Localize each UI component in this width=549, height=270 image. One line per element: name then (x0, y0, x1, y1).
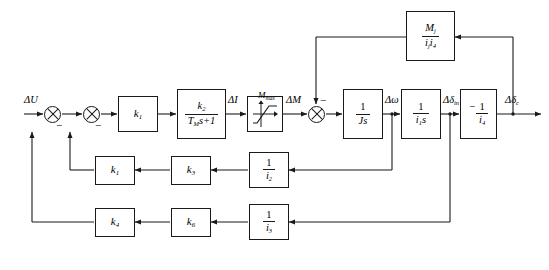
saturation-curve-icon (248, 97, 282, 131)
k1-feedback-label: k1 (111, 164, 119, 177)
input-signal-label: ΔU (24, 95, 38, 106)
i3-feedback-label: 1 i3 (263, 210, 275, 235)
k4-feedback-label: k4 (111, 216, 119, 229)
saturation-block[interactable] (247, 96, 283, 132)
i1-integrator-block[interactable]: 1 i1s (401, 89, 441, 139)
k1-gain-label: k1 (134, 108, 142, 121)
output-gain-label: − 1 i4 (469, 102, 488, 127)
sum-1-minus-sign: − (56, 120, 62, 131)
k4-feedback-block[interactable]: k4 (95, 208, 135, 237)
sum-2-minus-sign: − (95, 120, 101, 131)
k1-gain-block[interactable]: k1 (118, 96, 158, 132)
i2-feedback-block[interactable]: 1 i2 (249, 152, 289, 188)
lag-transfer-function-label: k2 TMs+1 (185, 101, 219, 127)
saturation-limit-label: Mmax (258, 90, 275, 101)
current-signal-label: ΔI (228, 95, 238, 106)
inertia-integrator-block[interactable]: 1 Js (343, 89, 383, 139)
k6-feedback-block[interactable]: k6 (171, 208, 211, 237)
block-diagram-canvas: − − − k1 k2 TMs+1 (0, 0, 549, 270)
speed-signal-label: Δω (385, 95, 399, 106)
i3-feedback-block[interactable]: 1 i3 (249, 204, 289, 240)
angle-in-signal-label: Δδin (443, 95, 459, 106)
k3-feedback-block[interactable]: k3 (171, 156, 211, 185)
load-torque-feedback-label: Mj iji4 (422, 23, 439, 49)
torque-signal-label: ΔM (286, 95, 301, 106)
first-order-lag-block[interactable]: k2 TMs+1 (177, 89, 226, 139)
i2-feedback-label: 1 i2 (263, 158, 275, 183)
inertia-integrator-label: 1 Js (356, 102, 371, 126)
k1-feedback-block[interactable]: k1 (95, 156, 135, 185)
k3-feedback-label: k3 (187, 164, 195, 177)
load-torque-feedback-block[interactable]: Mj iji4 (406, 11, 455, 61)
i1-integrator-label: 1 i1s (413, 102, 429, 127)
sum-3-minus-sign: − (320, 95, 326, 106)
k6-feedback-label: k6 (187, 216, 195, 229)
sum-3 (308, 106, 325, 123)
output-inverting-gain-block[interactable]: − 1 i4 (460, 89, 497, 139)
angle-out-signal-label: Δδc (505, 95, 519, 106)
